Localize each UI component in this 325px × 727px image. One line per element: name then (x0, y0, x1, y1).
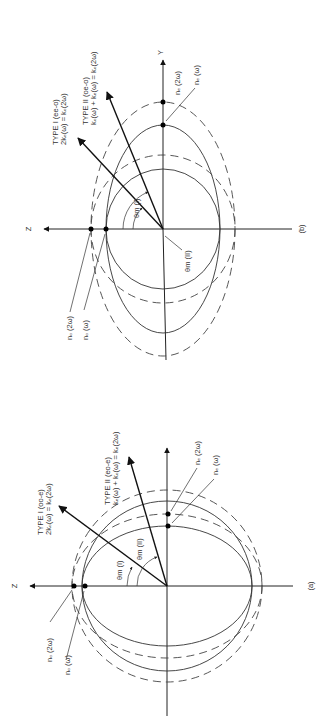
z-label-b: Z (24, 226, 33, 231)
panel-a: Z (a) TYPE I (oo-e) 2kₒ(ω) = kₑ(2ω) TYPE… (10, 431, 315, 716)
theta1-arc-a (127, 567, 132, 586)
caption-a: (a) (306, 581, 315, 591)
ne-w-label-b: nₑ (ω) (192, 65, 201, 85)
dot-no-w-a (83, 584, 88, 589)
leader-no-2w-a (50, 590, 72, 622)
theta1-label-b: θm (I) (132, 198, 141, 218)
phase-matching-diagram: Z Y (b) TYPE I (ee-o) 2kₑ(ω) = kₒ(2ω) TY… (0, 0, 325, 727)
ne-2w-label-b: nₑ (2ω) (173, 70, 182, 95)
type1-arrow-b (78, 138, 163, 229)
dot-no-w-b (104, 227, 109, 232)
y-label-b: Y (156, 50, 165, 55)
no-2w-label-b: nₒ (2ω) (65, 315, 74, 340)
theta2-label-b: θm (II) (183, 250, 192, 272)
dot-ne-2w-a (166, 512, 171, 517)
dot-ne-w-a (166, 524, 171, 529)
theta2-label-a: θm (II) (135, 538, 144, 560)
caption-b: (b) (297, 224, 306, 234)
type1-eq-b: 2kₑ(ω) = kₒ(2ω) (59, 93, 68, 145)
dot-no-2w-b (89, 227, 94, 232)
no-w-label-b: nₒ (ω) (81, 320, 90, 340)
type2-eq-a: kₑ(ω) + kₒ(ω) = kₑ(2ω) (111, 431, 120, 505)
dot-ne-w-b (161, 123, 166, 128)
panel-b: Z Y (b) TYPE I (ee-o) 2kₑ(ω) = kₒ(2ω) TY… (24, 50, 306, 360)
type2-arrow-a (129, 457, 167, 586)
dot-ne-2w-b (161, 100, 166, 105)
leader-ne-2w-a (171, 468, 197, 511)
y-axis-b-neg (163, 229, 166, 360)
no-w-label-a: nₒ (ω) (63, 655, 72, 675)
theta1-label-a: θm (I) (115, 560, 124, 580)
type1-arrow-a (59, 506, 167, 586)
type1-eq-a: 2kₒ(ω) = kₑ(2ω) (44, 483, 53, 535)
ne-w-label-a: nₑ (ω) (211, 455, 220, 475)
type2-eq-b: kₒ(ω) + kₑ(ω) = kₒ(2ω) (89, 51, 98, 125)
no-2w-label-a: nₒ (2ω) (45, 637, 54, 662)
ne-2w-label-a: nₑ (2ω) (193, 440, 202, 465)
leader-theta2-b (165, 236, 182, 250)
z-label-a: Z (10, 583, 19, 588)
leader-no-w-a (66, 591, 84, 660)
dot-no-2w-a (72, 584, 77, 589)
